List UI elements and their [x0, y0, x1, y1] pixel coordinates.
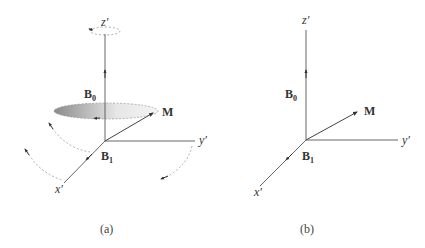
m-label: M [162, 106, 173, 118]
b1-arrow-icon [86, 154, 92, 160]
z-axis-label: z′ [302, 14, 309, 26]
z-rotation-arrow-icon [89, 29, 93, 30]
rotation-arc-2-arrow-icon [25, 149, 29, 155]
diagram-canvas [0, 0, 425, 248]
rotation-arc-3-arrow-icon [161, 176, 168, 179]
b0-text: B [285, 87, 293, 101]
b0-label: B0 [84, 88, 96, 103]
b0-subscript: 0 [293, 94, 297, 103]
panel-b [260, 30, 398, 186]
x-axis-label: x′ [254, 186, 262, 198]
x-axis-label: x′ [55, 183, 63, 195]
z-axis-label: z′ [101, 16, 108, 28]
b1-label: B1 [101, 150, 113, 165]
y-axis-label: y′ [402, 134, 410, 146]
x-axis [64, 141, 105, 183]
b1-arrow-icon [286, 154, 292, 160]
b1-subscript: 1 [310, 156, 314, 165]
b1-label: B1 [302, 150, 314, 165]
rotation-arc-3 [165, 146, 192, 178]
b1-subscript: 1 [109, 156, 113, 165]
x-axis [260, 140, 306, 186]
precession-disc [54, 103, 158, 119]
rotation-arc-1-arrow-icon [49, 123, 53, 129]
b0-text: B [84, 87, 92, 101]
caption-a: (a) [100, 223, 113, 235]
b1-text: B [302, 149, 310, 163]
m-vector [306, 112, 357, 140]
b0-label: B0 [285, 88, 297, 103]
m-label: M [364, 105, 375, 117]
rotation-arc-1 [50, 125, 90, 152]
b0-subscript: 0 [92, 94, 96, 103]
rotation-arc-2 [27, 151, 62, 180]
disc-arrow-icon [94, 118, 100, 119]
caption-b: (b) [300, 223, 314, 235]
y-axis-label: y′ [199, 134, 207, 146]
b1-text: B [101, 149, 109, 163]
